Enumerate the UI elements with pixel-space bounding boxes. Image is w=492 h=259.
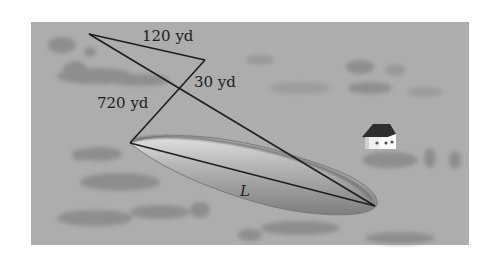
label-720-yd: 720 yd — [97, 94, 149, 112]
lake-survey-figure: 120 yd 30 yd 720 yd L — [0, 0, 492, 259]
label-120-yd: 120 yd — [142, 27, 194, 45]
label-lake-length-L: L — [239, 182, 250, 200]
label-30-yd: 30 yd — [194, 73, 236, 91]
